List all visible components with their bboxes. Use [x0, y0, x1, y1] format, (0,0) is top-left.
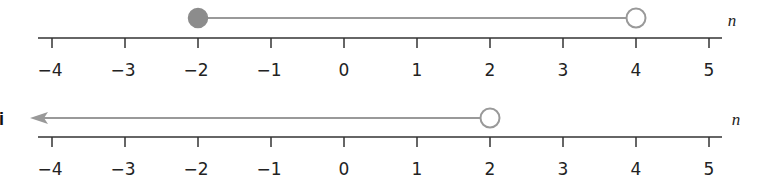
tick-label: −3: [110, 159, 135, 179]
tick-label: 3: [558, 159, 569, 179]
closed-point-icon: [189, 9, 208, 28]
part-label: i: [0, 109, 4, 129]
tick-label: 1: [412, 60, 423, 80]
tick-label: −1: [256, 159, 281, 179]
number-line-1: −4 −3 −2 −1 0 1 2 3 4 5 n: [37, 9, 736, 81]
tick-label: 4: [631, 159, 642, 179]
tick-label: 3: [558, 60, 569, 80]
tick-label: 0: [339, 159, 350, 179]
tick-label: 5: [704, 159, 715, 179]
tick-label: −4: [37, 159, 62, 179]
number-lines-figure: −4 −3 −2 −1 0 1 2 3 4 5 n i −4 −3: [0, 0, 772, 186]
variable-label: n: [732, 110, 741, 129]
open-point-icon: [627, 9, 646, 28]
tick-label: −4: [37, 60, 62, 80]
number-line-2: i −4 −3 −2 −1 0 1 2 3 4 5 n: [0, 109, 740, 180]
tick-label: 5: [704, 60, 715, 80]
tick-label: −2: [183, 60, 208, 80]
tick-label: 4: [631, 60, 642, 80]
tick-label: −3: [110, 60, 135, 80]
tick-label: −1: [256, 60, 281, 80]
open-point-icon: [481, 109, 500, 128]
ticks: [52, 38, 709, 48]
tick-label: 2: [485, 60, 496, 80]
variable-label: n: [728, 11, 737, 30]
tick-label: 2: [485, 159, 496, 179]
tick-label: 0: [339, 60, 350, 80]
tick-label: 1: [412, 159, 423, 179]
tick-label: −2: [183, 159, 208, 179]
ticks: [52, 137, 709, 147]
